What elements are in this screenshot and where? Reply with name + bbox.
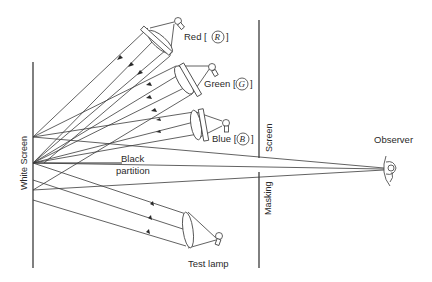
test-lamp-label: Test lamp [188,258,229,269]
blue-symbol: B [240,134,246,144]
blue-lamp-icon [223,120,230,133]
green-lens [171,63,202,97]
green-label: Green [ [204,78,236,89]
colorimeter-diagram: Red [ R ] Green [ G ] Blue [ B ] White S… [0,0,432,282]
red-symbol: R [214,32,221,42]
red-lens [141,26,176,57]
red-label: Red [ [184,31,207,42]
white-screen-label: White Screen [19,136,29,190]
green-symbol: G [239,79,246,89]
screen-label: Screen [264,123,274,152]
green-lamp-icon [209,64,219,77]
red-lamp-icon [175,18,185,30]
blue-label: Blue [ [212,133,237,144]
sight-line-mid [33,163,384,169]
observer-label: Observer [374,134,413,145]
green-close: ] [250,78,253,89]
sight-line-lower [33,170,384,190]
black-partition-label-1: Black [121,153,144,164]
blue-lens [188,109,208,141]
test-lamp-icon [215,233,222,246]
red-close: ] [226,31,229,42]
black-partition-label-2: partition [116,165,150,176]
blue-close: ] [251,133,254,144]
observer-eye-icon [384,156,396,186]
masking-label: Masking [263,181,273,215]
